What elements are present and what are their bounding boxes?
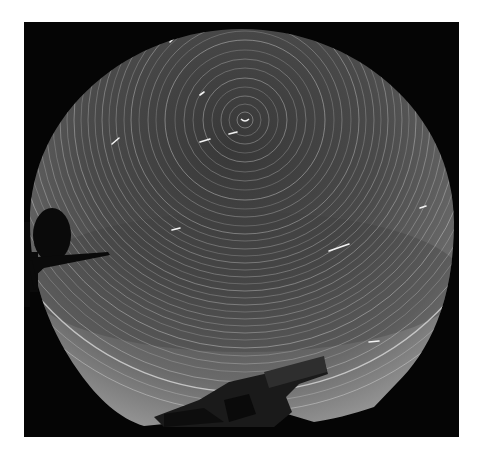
- sky-disk: [24, 22, 459, 437]
- photo-frame: [24, 22, 459, 437]
- all-sky-photo: [24, 22, 459, 437]
- streak: [369, 341, 379, 342]
